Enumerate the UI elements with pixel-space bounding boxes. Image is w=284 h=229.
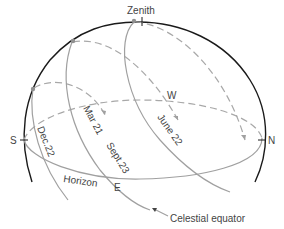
horizon-back xyxy=(24,100,262,140)
arrow-dec22 xyxy=(101,110,106,115)
june22-path-front xyxy=(125,22,230,192)
dec22-label: Dec.22 xyxy=(35,125,57,159)
june22-label: June 22 xyxy=(155,112,185,148)
celestial-equator-pointer xyxy=(154,209,168,216)
celestial-equator-label: Celestial equator xyxy=(170,213,246,224)
north-label: N xyxy=(268,135,275,146)
zenith-label: Zenith xyxy=(127,5,155,16)
sun-marker-equator xyxy=(71,39,75,43)
sun-marker-dec22 xyxy=(31,87,35,91)
celestial-sphere-diagram: Zenith S N W E Horizon Dec.22 Mar 21 Sep… xyxy=(0,0,284,229)
south-label: S xyxy=(10,135,17,146)
sept23-label: Sept.23 xyxy=(104,140,132,175)
june22-path-back xyxy=(136,22,245,140)
east-label: E xyxy=(114,182,121,193)
sphere-outline xyxy=(24,22,265,182)
horizon-front xyxy=(24,138,262,179)
sun-marker-june22 xyxy=(132,19,136,23)
west-label: W xyxy=(167,90,177,101)
